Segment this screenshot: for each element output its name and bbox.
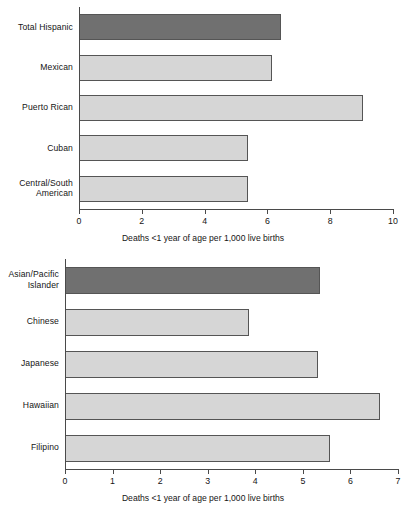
x-axis-tick-label: 0 (77, 216, 82, 226)
bar (79, 55, 272, 81)
bar (79, 176, 248, 202)
category-label: Puerto Rican (2, 102, 73, 112)
x-axis-tick-label: 5 (300, 476, 305, 486)
x-axis-tick-label: 8 (328, 216, 333, 226)
bar (79, 95, 363, 121)
x-axis-tick (65, 470, 66, 474)
x-axis-tick-label: 2 (139, 216, 144, 226)
x-axis-tick (208, 470, 209, 474)
x-axis-tick (160, 470, 161, 474)
bar (79, 135, 248, 161)
x-axis-tick-label: 0 (63, 476, 68, 486)
x-axis-tick-label: 10 (388, 216, 398, 226)
x-axis-tick (350, 470, 351, 474)
x-axis-tick (398, 470, 399, 474)
x-axis-tick (393, 210, 394, 214)
bar (65, 435, 330, 462)
x-axis-tick (79, 210, 80, 214)
x-axis-tick (205, 210, 206, 214)
x-axis-tick-label: 6 (265, 216, 270, 226)
category-label: Chinese (2, 316, 59, 326)
y-axis-line (79, 7, 80, 210)
category-label: Hawaiian (2, 400, 59, 410)
x-axis-tick (142, 210, 143, 214)
chart-hispanic: Total HispanicMexicanPuerto RicanCubanCe… (0, 0, 406, 252)
category-label: Total Hispanic (2, 22, 73, 32)
x-axis-tick (255, 470, 256, 474)
figure-container: Total HispanicMexicanPuerto RicanCubanCe… (0, 0, 406, 519)
bar (65, 393, 380, 420)
x-axis-title: Deaths <1 year of age per 1,000 live bir… (0, 233, 406, 243)
x-axis-tick-label: 4 (202, 216, 207, 226)
x-axis-tick-label: 2 (158, 476, 163, 486)
category-label: Mexican (2, 62, 73, 72)
x-axis-tick-label: 1 (110, 476, 115, 486)
chart-asian-pacific: Asian/Pacific IslanderChineseJapaneseHaw… (0, 255, 406, 519)
x-axis-tick-label: 3 (205, 476, 210, 486)
x-axis-line (79, 209, 394, 210)
bar (65, 267, 320, 294)
x-axis-tick-label: 6 (348, 476, 353, 486)
category-label: Filipino (2, 442, 59, 452)
category-label: Japanese (2, 358, 59, 368)
x-axis-title: Deaths <1 year of age per 1,000 live bir… (0, 493, 406, 503)
y-axis-line (65, 259, 66, 470)
category-label: Cuban (2, 143, 73, 153)
x-axis-line (65, 469, 399, 470)
category-label: Asian/Pacific Islander (2, 269, 59, 289)
x-axis-tick-label: 4 (253, 476, 258, 486)
x-axis-tick (330, 210, 331, 214)
x-axis-tick-label: 7 (396, 476, 401, 486)
x-axis-tick (267, 210, 268, 214)
bar (65, 309, 249, 336)
bar (65, 351, 318, 378)
bar (79, 14, 281, 40)
x-axis-tick (303, 470, 304, 474)
x-axis-tick (113, 470, 114, 474)
category-label: Central/South American (2, 178, 73, 198)
